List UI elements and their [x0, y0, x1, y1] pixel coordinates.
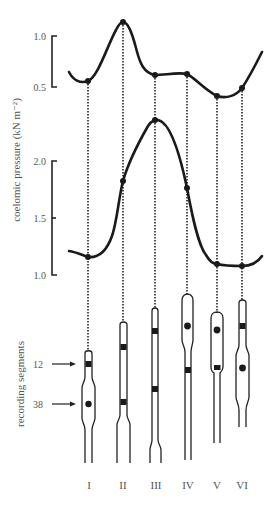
lower-pressure-trace [69, 120, 262, 266]
top-y-axis [52, 36, 57, 87]
worm-shape-II [117, 322, 130, 463]
top-tick-0.5: 0.5 [34, 82, 47, 93]
worm-shape-VI [236, 300, 249, 427]
stage-label-II: II [119, 479, 127, 491]
segment-markers [85, 323, 246, 408]
guide-lines [88, 22, 242, 350]
stage-label-III: III [151, 479, 162, 491]
upper-trace-points [85, 19, 245, 99]
top-tick-1.0: 1.0 [34, 31, 47, 42]
stage-labels: I II III IV V VI [87, 479, 248, 491]
worm-shape-IV [182, 294, 193, 460]
locomotion-pressure-diagram: coelomic pressure (kN m⁻²) 1.0 0.5 2.0 1… [0, 0, 276, 507]
bottom-tick-2.0: 2.0 [34, 156, 47, 167]
segment-12-arrow [52, 362, 76, 367]
bottom-tick-1.5: 1.5 [34, 213, 47, 224]
stage-label-VI: VI [236, 479, 248, 491]
upper-pressure-trace [69, 22, 262, 97]
lower-trace-points [85, 117, 245, 269]
segment-12-label: 12 [33, 359, 43, 370]
bottom-y-axis [52, 161, 57, 275]
segment-38-arrow [52, 402, 76, 407]
stage-label-IV: IV [182, 479, 194, 491]
bottom-tick-1.0: 1.0 [34, 270, 47, 281]
stage-label-I: I [87, 479, 91, 491]
segment-38-label: 38 [33, 399, 43, 410]
recording-segments-label: recording segments [14, 341, 26, 427]
y-axis-label: coelomic pressure (kN m⁻²) [10, 98, 23, 222]
stage-label-V: V [213, 479, 221, 491]
